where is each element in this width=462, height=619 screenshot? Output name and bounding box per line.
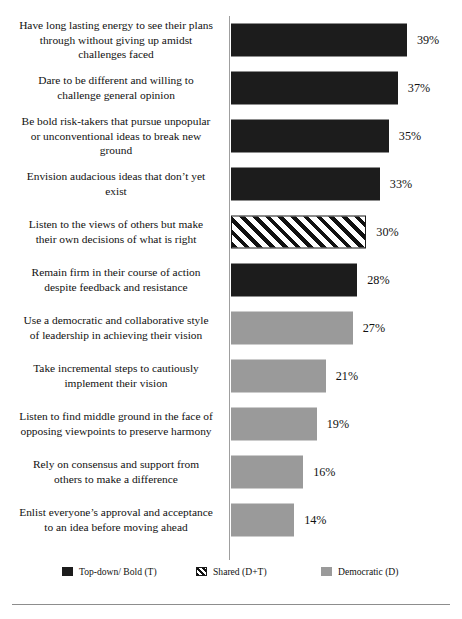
bar-value-label: 33% xyxy=(390,177,412,192)
category-label: Rely on consensus and support from other… xyxy=(8,457,224,486)
chart-legend: Top-down/ Bold (T)Shared (D+T)Democratic… xyxy=(0,566,462,586)
category-label: Remain firm in their course of action de… xyxy=(8,265,224,294)
bar-row: Use a democratic and collaborative style… xyxy=(0,304,462,352)
plot-area: Have long lasting energy to see their pl… xyxy=(0,16,462,561)
category-label: Dare to be different and willing to chal… xyxy=(8,73,224,102)
bar-topdown[interactable] xyxy=(231,264,357,297)
bar-value-label: 19% xyxy=(327,417,349,432)
bar-value-label: 14% xyxy=(304,513,326,528)
bar-wrapper: 33% xyxy=(231,168,412,201)
legend-label: Top-down/ Bold (T) xyxy=(79,566,157,577)
bar-value-label: 28% xyxy=(367,273,389,288)
bar-row: Listen to the views of others but make t… xyxy=(0,208,462,256)
category-label: Use a democratic and collaborative style… xyxy=(8,313,224,342)
bar-wrapper: 35% xyxy=(231,120,421,153)
legend-swatch-democratic-icon xyxy=(321,567,332,576)
category-label: Take incremental steps to cautiously imp… xyxy=(8,361,224,390)
bar-wrapper: 27% xyxy=(231,312,385,345)
category-label: Have long lasting energy to see their pl… xyxy=(8,18,224,62)
legend-swatch-shared-icon xyxy=(196,567,207,576)
bar-row: Remain firm in their course of action de… xyxy=(0,256,462,304)
category-label: Listen to the views of others but make t… xyxy=(8,217,224,246)
category-label: Be bold risk-takers that pursue unpopula… xyxy=(8,114,224,158)
bar-wrapper: 37% xyxy=(231,72,430,105)
bar-row: Have long lasting energy to see their pl… xyxy=(0,16,462,64)
bar-democratic[interactable] xyxy=(231,408,317,441)
legend-swatch-topdown-icon xyxy=(62,567,73,576)
bar-democratic[interactable] xyxy=(231,360,326,393)
category-label: Listen to find middle ground in the face… xyxy=(8,409,224,438)
bar-value-label: 35% xyxy=(399,129,421,144)
bar-democratic[interactable] xyxy=(231,504,294,537)
bar-row: Be bold risk-takers that pursue unpopula… xyxy=(0,112,462,160)
bar-wrapper: 21% xyxy=(231,360,358,393)
bar-value-label: 30% xyxy=(376,225,398,240)
legend-label: Shared (D+T) xyxy=(213,566,267,577)
bar-row: Take incremental steps to cautiously imp… xyxy=(0,352,462,400)
footer-divider xyxy=(12,604,450,605)
bar-shared[interactable] xyxy=(231,216,366,249)
bar-wrapper: 28% xyxy=(231,264,390,297)
bar-topdown[interactable] xyxy=(231,24,407,57)
bar-row: Listen to find middle ground in the face… xyxy=(0,400,462,448)
legend-item-democratic[interactable]: Democratic (D) xyxy=(321,566,398,577)
bar-value-label: 21% xyxy=(336,369,358,384)
bar-wrapper: 14% xyxy=(231,504,326,537)
bar-topdown[interactable] xyxy=(231,120,389,153)
bar-value-label: 16% xyxy=(313,465,335,480)
category-label: Envision audacious ideas that don’t yet … xyxy=(8,169,224,198)
bar-wrapper: 19% xyxy=(231,408,349,441)
legend-label: Democratic (D) xyxy=(338,566,398,577)
bar-rows: Have long lasting energy to see their pl… xyxy=(0,16,462,544)
bar-wrapper: 39% xyxy=(231,24,439,57)
bar-democratic[interactable] xyxy=(231,312,353,345)
bar-wrapper: 16% xyxy=(231,456,336,489)
bar-row: Envision audacious ideas that don’t yet … xyxy=(0,160,462,208)
bar-democratic[interactable] xyxy=(231,456,303,489)
bar-value-label: 37% xyxy=(408,81,430,96)
bar-value-label: 27% xyxy=(363,321,385,336)
bar-value-label: 39% xyxy=(417,33,439,48)
bar-wrapper: 30% xyxy=(231,216,399,249)
bar-row: Rely on consensus and support from other… xyxy=(0,448,462,496)
category-label: Enlist everyone’s approval and acceptanc… xyxy=(8,505,224,534)
legend-item-shared[interactable]: Shared (D+T) xyxy=(196,566,267,577)
bar-row: Dare to be different and willing to chal… xyxy=(0,64,462,112)
chart-root: Have long lasting energy to see their pl… xyxy=(0,0,462,619)
bar-row: Enlist everyone’s approval and acceptanc… xyxy=(0,496,462,544)
bar-topdown[interactable] xyxy=(231,168,380,201)
bar-topdown[interactable] xyxy=(231,72,398,105)
chart-title xyxy=(0,0,462,16)
legend-item-topdown[interactable]: Top-down/ Bold (T) xyxy=(62,566,157,577)
